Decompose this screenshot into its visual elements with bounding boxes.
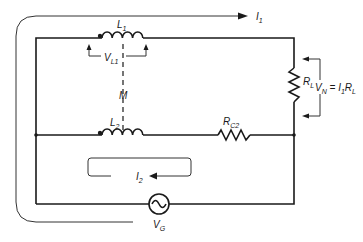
rl-label: RL (303, 76, 314, 89)
rc2-label: RC2 (223, 116, 239, 129)
inductor-l1: L1 VL1 (87, 19, 149, 65)
i2-arrow-icon (149, 173, 157, 180)
i2-current-loop: I2 (88, 158, 191, 184)
vn-top-arrow-icon (302, 57, 309, 62)
vl1-left-arrow-icon (87, 44, 92, 50)
circuit-wires (34, 38, 296, 204)
l2-label: L2 (110, 117, 120, 130)
sine-wave-icon (152, 201, 166, 208)
i2-label: I2 (136, 171, 143, 184)
resistor-rc2: RC2 (218, 116, 250, 140)
vl1-right-arrow-icon (144, 44, 149, 50)
vg-label: VG (153, 219, 166, 232)
junction-right (292, 133, 296, 137)
i1-arrow-icon (238, 13, 248, 20)
inductor-l2: L2 (98, 117, 143, 135)
vn-equation-label: VN = I1RL (315, 82, 356, 95)
mutual-coupling: M (119, 44, 128, 132)
vn-bottom-arrow-icon (302, 114, 309, 119)
ac-source-vg: VG (149, 194, 169, 232)
mutual-inductance-label: M (119, 90, 128, 101)
i1-label: I1 (256, 11, 263, 24)
l1-label: L1 (117, 19, 127, 32)
resistor-rl: RL (289, 68, 314, 102)
vl1-label: VL1 (104, 52, 119, 65)
circuit-diagram: I1 L1 VL1 M L2 (0, 0, 363, 242)
junction-left (34, 133, 38, 137)
